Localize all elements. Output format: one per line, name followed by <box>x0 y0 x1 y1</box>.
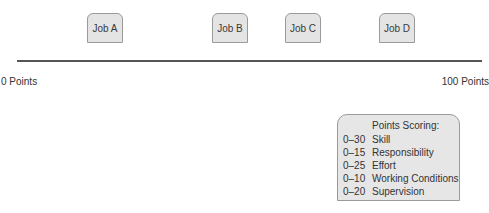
job-b-box: Job B <box>212 13 248 43</box>
legend-range: 0–30 <box>343 134 372 146</box>
scale-max-label: 100 Points <box>442 76 489 87</box>
legend-factor: Effort <box>372 160 396 172</box>
legend-row-working-conditions: 0–10Working Conditions <box>343 173 459 185</box>
legend-range: 0–15 <box>343 147 372 159</box>
job-c-box: Job C <box>285 13 321 43</box>
legend-range: 0–25 <box>343 160 372 172</box>
legend-factor: Working Conditions <box>372 173 459 185</box>
job-c-label: Job C <box>290 23 316 34</box>
legend-factor: Responsibility <box>372 147 434 159</box>
job-b-label: Job B <box>217 23 243 34</box>
job-a-box: Job A <box>87 13 123 43</box>
legend-factor: Supervision <box>372 186 424 198</box>
legend-title: Points Scoring: <box>372 120 439 131</box>
legend-row-supervision: 0–20Supervision <box>343 186 424 198</box>
legend-range: 0–10 <box>343 173 372 185</box>
legend-row-effort: 0–25Effort <box>343 160 396 172</box>
legend-row-responsibility: 0–15Responsibility <box>343 147 434 159</box>
legend-range: 0–20 <box>343 186 372 198</box>
legend-factor: Skill <box>372 134 390 146</box>
legend-row-skill: 0–30Skill <box>343 134 390 146</box>
job-d-box: Job D <box>379 13 415 43</box>
job-d-label: Job D <box>384 23 410 34</box>
scale-min-label: 0 Points <box>1 76 37 87</box>
points-scale-line <box>17 60 482 62</box>
job-a-label: Job A <box>92 23 117 34</box>
points-scoring-legend: Points Scoring: 0–30Skill 0–15Responsibi… <box>337 114 460 201</box>
